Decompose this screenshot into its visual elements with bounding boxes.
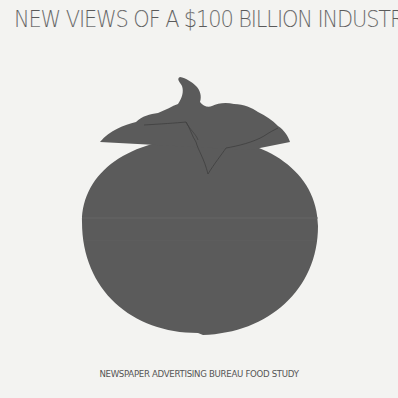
tomato-icon bbox=[0, 0, 398, 398]
tomato-body bbox=[82, 138, 318, 335]
tomato-silhouette bbox=[82, 77, 318, 335]
tomato-calyx bbox=[100, 77, 290, 150]
poster-footer: NEWSPAPER ADVERTISING BUREAU FOOD STUDY bbox=[0, 369, 398, 379]
